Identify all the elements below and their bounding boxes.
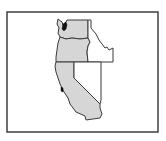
water-san-francisco-bay (61, 87, 63, 92)
western-us-map: WashingtonOregonCaliforniaIdahoNevada (0, 0, 166, 141)
state-washington: Washington (57, 19, 88, 39)
state-oregon: Oregon (56, 37, 90, 62)
map-figure: WashingtonOregonCaliforniaIdahoNevada We… (0, 0, 166, 141)
